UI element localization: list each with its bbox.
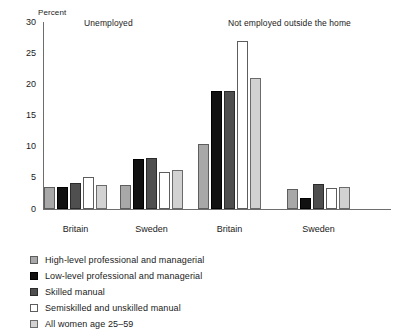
x-group-label-2: Britain — [190, 224, 270, 234]
legend-item-4: All women age 25–59 — [30, 316, 360, 332]
legend-swatch-low-level — [30, 272, 38, 280]
legend-label-3: Semiskilled and unskilled manual — [45, 303, 181, 313]
bar-group-0-series-0 — [44, 187, 55, 209]
legend-label-0: High-level professional and managerial — [45, 255, 204, 265]
bar-group-3-series-4 — [339, 187, 350, 209]
y-tick-label-20: 20 — [14, 80, 36, 89]
legend-swatch-semiskilled — [30, 304, 38, 312]
chart-legend: High-level professional and managerialLo… — [30, 252, 360, 332]
bar-group-2-series-4 — [250, 78, 261, 209]
x-group-label-0: Britain — [36, 224, 116, 234]
y-tick-label-10: 10 — [14, 142, 36, 151]
y-tick-label-30: 30 — [14, 18, 36, 27]
bar-group-2 — [198, 22, 261, 209]
bar-group-2-series-1 — [211, 91, 222, 209]
legend-swatch-all-women — [30, 320, 38, 328]
bar-group-2-series-2 — [224, 91, 235, 209]
bar-group-1-series-2 — [146, 158, 157, 209]
bar-group-1 — [120, 22, 183, 209]
bar-group-0 — [44, 22, 107, 209]
legend-label-1: Low-level professional and managerial — [45, 271, 202, 281]
x-group-label-3: Sweden — [279, 224, 359, 234]
x-group-label-1: Sweden — [112, 224, 192, 234]
bar-group-3-series-3 — [326, 188, 337, 209]
bar-group-2-series-0 — [198, 144, 209, 209]
bar-group-2-series-3 — [237, 41, 248, 209]
bar-group-0-series-1 — [57, 187, 68, 209]
bar-group-1-series-0 — [120, 185, 131, 209]
legend-label-2: Skilled manual — [45, 287, 105, 297]
bar-group-3-series-2 — [313, 184, 324, 209]
x-axis-line — [43, 209, 391, 210]
y-tick-label-0: 0 — [14, 205, 36, 214]
bar-group-0-series-3 — [83, 177, 94, 209]
y-tick-label-25: 25 — [14, 49, 36, 58]
legend-item-0: High-level professional and managerial — [30, 252, 360, 268]
y-tick-label-15: 15 — [14, 111, 36, 120]
bar-group-3-series-0 — [287, 189, 298, 209]
legend-item-2: Skilled manual — [30, 284, 360, 300]
bar-chart: Percent 302520151050 Unemployed Not empl… — [0, 0, 394, 334]
plot-area — [44, 22, 391, 209]
bar-group-1-series-4 — [172, 170, 183, 209]
bar-group-0-series-4 — [96, 185, 107, 209]
y-tick-label-5: 5 — [14, 173, 36, 182]
y-axis-title: Percent — [38, 8, 66, 17]
bar-group-0-series-2 — [70, 183, 81, 209]
legend-swatch-high-level — [30, 256, 38, 264]
legend-item-1: Low-level professional and managerial — [30, 268, 360, 284]
bar-group-3 — [287, 22, 350, 209]
legend-item-3: Semiskilled and unskilled manual — [30, 300, 360, 316]
bar-group-1-series-3 — [159, 172, 170, 209]
legend-swatch-skilled — [30, 288, 38, 296]
bar-group-1-series-1 — [133, 159, 144, 209]
legend-label-4: All women age 25–59 — [45, 319, 133, 329]
bar-group-3-series-1 — [300, 198, 311, 209]
